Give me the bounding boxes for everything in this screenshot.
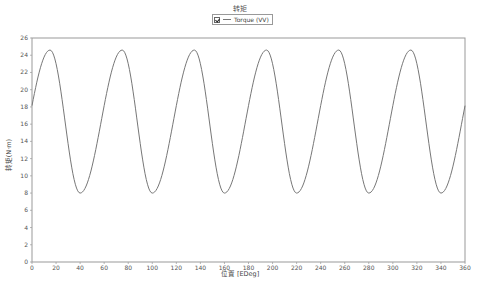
y-tick-label: 18 [20,103,28,110]
y-tick-label: 26 [20,34,28,41]
y-tick-label: 8 [24,189,28,196]
torque-series-line [32,50,465,193]
y-tick-label: 2 [24,241,28,248]
axes: 0246810121416182022242602040608010012014… [20,34,471,271]
x-axis-label: 位置 [EDeg] [0,268,480,278]
y-tick-label: 16 [20,120,28,127]
y-tick-label: 14 [20,137,28,144]
plot-area: 0246810121416182022242602040608010012014… [0,0,480,286]
y-tick-label: 4 [24,224,28,231]
y-tick-label: 22 [20,68,28,75]
y-tick-label: 6 [24,206,28,213]
y-tick-label: 0 [24,258,28,265]
y-tick-label: 12 [20,155,28,162]
y-axis-label: 转矩(N·m) [3,135,13,175]
y-tick-label: 24 [20,51,28,58]
y-tick-label: 10 [20,172,28,179]
y-tick-label: 20 [20,86,28,93]
